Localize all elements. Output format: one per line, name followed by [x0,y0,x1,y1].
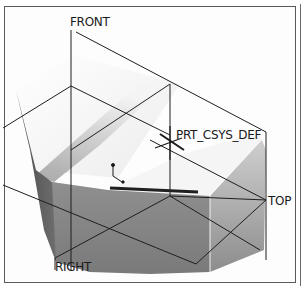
csys-label[interactable]: PRT_CSYS_DEF [176,128,261,142]
top-plane-label[interactable]: TOP [268,194,291,208]
front-plane-label[interactable]: FRONT [70,15,110,29]
model-scene[interactable] [0,0,304,287]
right-plane-label[interactable]: RIGHT [55,260,91,274]
